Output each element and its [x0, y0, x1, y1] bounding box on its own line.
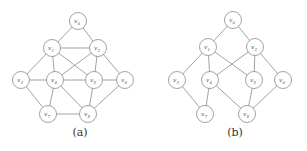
graph-figure-canvas: v0v1v2v3v4v5v6v7v8 (a) v0v1v2v3v4v5v6v7v…: [0, 0, 307, 151]
node-v6: v6: [275, 72, 292, 89]
node-v6: v6: [117, 72, 134, 89]
node-v8: v8: [80, 106, 97, 123]
graph-a-caption: (a): [72, 126, 87, 139]
node-v3: v3: [169, 72, 186, 89]
node-v2: v2: [247, 39, 264, 56]
node-v7: v7: [197, 106, 214, 123]
graph-a-nodes: v0v1v2v3v4v5v6v7v8: [13, 13, 134, 123]
node-v4: v4: [47, 72, 64, 89]
node-v7: v7: [40, 106, 57, 123]
node-v1: v1: [44, 40, 61, 57]
node-v8: v8: [239, 106, 256, 123]
node-v4: v4: [202, 72, 219, 89]
graph-b: v0v1v2v3v4v5v6v7v8 (b): [169, 12, 292, 140]
node-v1: v1: [200, 39, 217, 56]
node-v0: v0: [225, 12, 242, 29]
node-v3: v3: [13, 72, 30, 89]
node-v0: v0: [70, 13, 87, 30]
graph-b-nodes: v0v1v2v3v4v5v6v7v8: [169, 12, 292, 123]
node-v5: v5: [246, 72, 263, 89]
node-v2: v2: [90, 40, 107, 57]
graph-a: v0v1v2v3v4v5v6v7v8 (a): [13, 13, 134, 140]
graph-a-edges: [21, 21, 125, 114]
graph-b-edges: [177, 20, 283, 114]
node-v5: v5: [86, 72, 103, 89]
graph-b-caption: (b): [227, 126, 243, 139]
